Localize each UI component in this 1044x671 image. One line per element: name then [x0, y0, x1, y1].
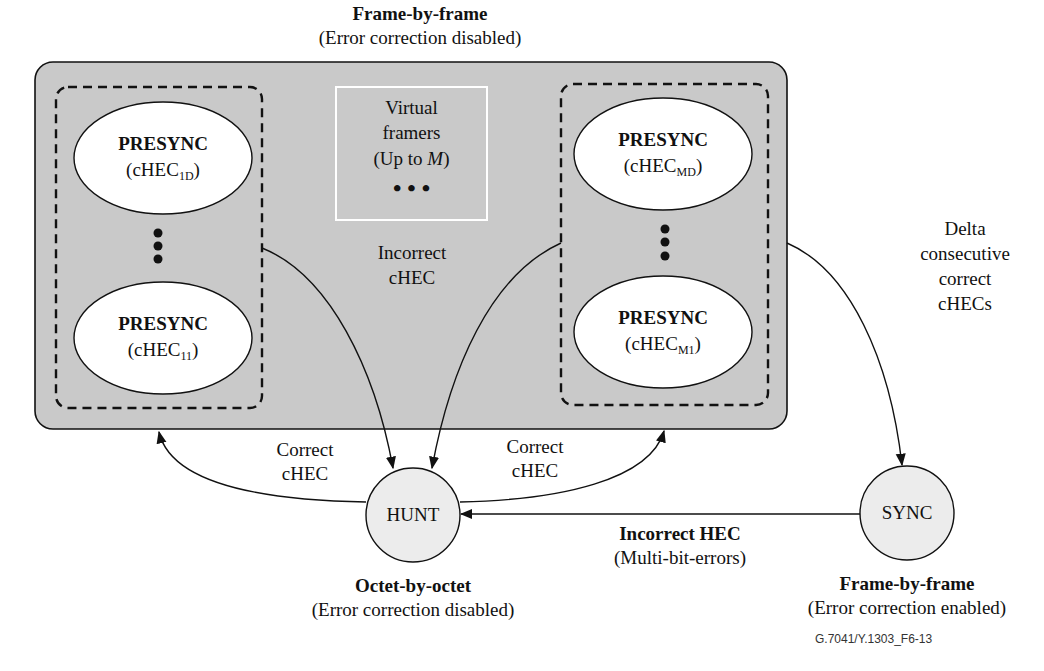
- label-sub: MD: [677, 165, 696, 179]
- presync-md-label: (cHECMD): [574, 155, 752, 183]
- incorrect-hec-subtitle: (Multi-bit-errors): [580, 547, 780, 569]
- label-prefix: (cHEC: [128, 339, 181, 360]
- label-suffix: ): [192, 339, 198, 360]
- figure-id: G.7041/Y.1303_F6-13: [815, 632, 932, 646]
- top-state-title: Frame-by-frame: [300, 3, 540, 25]
- presync-m1-label: (cHECM1): [574, 333, 752, 361]
- correct-chec-left-line2: cHEC: [250, 463, 360, 485]
- label-suffix: ): [696, 155, 702, 176]
- vertical-ellipsis-right-icon: [661, 225, 670, 261]
- sync-label: SYNC: [860, 502, 954, 524]
- incorrect-hec-title: Incorrect HEC: [580, 523, 780, 545]
- virtual-framers-line3: (Up to M): [336, 148, 487, 170]
- correct-chec-left-line1: Correct: [250, 439, 360, 461]
- label-prefix: (cHEC: [126, 159, 179, 180]
- label-prefix: (cHEC: [624, 155, 677, 176]
- correct-chec-right-line1: Correct: [480, 436, 590, 458]
- presync-md-ellipse[interactable]: [574, 98, 752, 210]
- vertical-ellipsis-left-icon: [154, 229, 163, 264]
- presync-m1-ellipse[interactable]: [574, 276, 752, 388]
- delta-line3: correct: [900, 268, 1030, 290]
- presync-1d-label: (cHEC1D): [74, 159, 252, 187]
- presync-1d-title: PRESYNC: [74, 133, 252, 155]
- vf-prefix: (Up to: [374, 148, 428, 169]
- label-sub: M1: [678, 343, 695, 357]
- top-state-subtitle: (Error correction disabled): [280, 27, 560, 49]
- hunt-label: HUNT: [366, 504, 460, 526]
- presync-11-ellipse[interactable]: [74, 282, 252, 394]
- presync-md-title: PRESYNC: [574, 129, 752, 151]
- horizontal-ellipsis-icon: • • •: [336, 177, 487, 199]
- label-sub: 11: [180, 349, 192, 363]
- delta-line2: consecutive: [900, 243, 1030, 265]
- label-suffix: ): [194, 159, 200, 180]
- incorrect-chec-line1: Incorrect: [352, 242, 472, 264]
- incorrect-chec-line2: cHEC: [352, 267, 472, 289]
- presync-1d-ellipse[interactable]: [74, 102, 252, 214]
- presync-11-label: (cHEC11): [74, 339, 252, 367]
- label-suffix: ): [695, 333, 701, 354]
- arrow-delta-to-sync: [787, 243, 902, 465]
- virtual-framers-line2: framers: [336, 122, 487, 144]
- presync-11-title: PRESYNC: [74, 313, 252, 335]
- correct-chec-right-line2: cHEC: [480, 460, 590, 482]
- vf-suffix: ): [443, 148, 449, 169]
- virtual-framers-line1: Virtual: [336, 97, 487, 119]
- delta-line1: Delta: [900, 218, 1030, 240]
- sync-title: Frame-by-frame: [807, 573, 1007, 595]
- label-sub: 1D: [179, 169, 194, 183]
- hunt-title: Octet-by-octet: [313, 575, 513, 597]
- label-prefix: (cHEC: [625, 333, 678, 354]
- sync-subtitle: (Error correction enabled): [777, 597, 1037, 619]
- state-diagram: [0, 0, 1044, 671]
- vf-var: M: [427, 148, 443, 169]
- hunt-subtitle: (Error correction disabled): [283, 599, 543, 621]
- delta-line4: cHECs: [900, 293, 1030, 315]
- presync-m1-title: PRESYNC: [574, 307, 752, 329]
